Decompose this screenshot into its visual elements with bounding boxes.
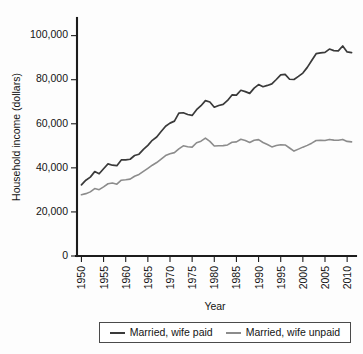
y-tick-label: 20,000 [36,205,68,217]
chart-figure: 020,00040,00060,00080,000100,000 1950195… [0,0,363,354]
x-tick-label: 1970 [164,266,176,290]
x-axis-tick-labels: 1950195519601965197019751980198519901995… [75,266,353,290]
series-line [81,138,351,195]
line-chart-canvas: 020,00040,00060,00080,000100,000 1950195… [0,0,363,354]
x-tick-label: 1990 [253,266,265,290]
y-tick-label: 0 [62,249,68,261]
legend-item-label: Married, wife unpaid [246,327,341,338]
x-tick-label: 1960 [120,266,132,290]
x-tick-label: 2000 [297,266,309,290]
x-tick-label: 1995 [275,266,287,290]
x-tick-label: 1975 [186,266,198,290]
x-tick-label: 1985 [230,266,242,290]
legend-line-icon [226,332,241,334]
series-line [81,46,351,185]
legend-line-icon [110,332,125,334]
data-series-group [81,46,351,195]
x-axis-title: Year [204,300,226,312]
y-tick-label: 60,000 [36,117,68,129]
x-tick-label: 1955 [98,266,110,290]
y-tick-label: 100,000 [30,28,68,40]
x-tick-label: 1980 [208,266,220,290]
x-tick-label: 1950 [75,266,87,290]
legend-item[interactable]: Married, wife paid [110,327,213,338]
y-axis-title: Household income (dollars) [10,73,22,201]
x-tick-label: 1965 [142,266,154,290]
x-tick-label: 2005 [319,266,331,290]
chart-legend: Married, wife paidMarried, wife unpaid [99,322,351,343]
legend-item-label: Married, wife paid [130,327,213,338]
legend-item[interactable]: Married, wife unpaid [226,327,341,338]
y-tick-label: 40,000 [36,161,68,173]
x-tick-label: 2010 [341,266,353,290]
y-tick-label: 80,000 [36,72,68,84]
y-axis-tick-labels: 020,00040,00060,00080,000100,000 [30,28,68,260]
